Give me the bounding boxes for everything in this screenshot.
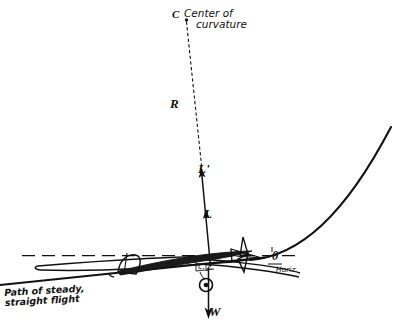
radius-dashed-line: [187, 22, 203, 170]
center-of-curvature-label: Center ofcurvature: [184, 8, 247, 31]
curved-flight-path: [250, 127, 391, 260]
horizontal-reference-label: Horiz.: [276, 266, 298, 274]
landing-wheel: [200, 279, 213, 292]
lift-prime-label: L': [198, 162, 210, 176]
center-point-label: C: [172, 9, 179, 21]
center-of-curvature-line1: Center of: [184, 7, 233, 19]
figure-canvas: C Center ofcurvature R L' L W c.g. θ Hor…: [0, 0, 396, 329]
angle-theta-label: θ: [272, 250, 278, 263]
center-of-gravity-label: c.g.: [198, 263, 213, 272]
radius-line-group: [185, 18, 202, 170]
radius-label: R: [170, 97, 179, 111]
lift-label: L: [204, 207, 212, 221]
center-of-curvature-line2: curvature: [196, 19, 247, 30]
weight-label: W: [209, 305, 221, 319]
